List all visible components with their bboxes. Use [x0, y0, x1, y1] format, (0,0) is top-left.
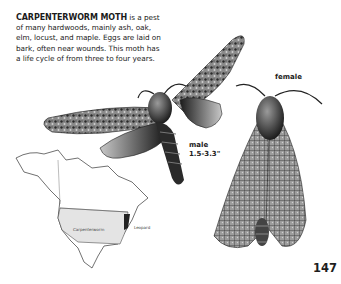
illustrations: Carpenterworm Leopard	[0, 0, 341, 284]
female-moth-illustration	[214, 84, 322, 247]
map-label-carpenterworm: Carpenterworm	[73, 227, 104, 232]
male-caption: male 1.5-3.3"	[189, 141, 220, 159]
book-page: CARPENTERWORM MOTH is a pest of many har…	[0, 0, 341, 284]
map-label-leopard: Leopard	[134, 225, 151, 230]
male-size: 1.5-3.3"	[189, 150, 220, 159]
page-number: 147	[313, 261, 337, 275]
male-label: male	[189, 141, 220, 150]
female-label: female	[275, 73, 302, 82]
range-map: Carpenterworm Leopard	[16, 150, 151, 268]
